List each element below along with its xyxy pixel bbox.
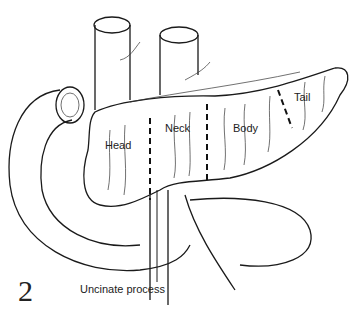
label-neck: Neck [165,122,191,134]
surface-hatching [108,76,325,195]
portal-vein [95,25,130,110]
vessel-branch [120,42,210,80]
jejunum [190,198,311,266]
label-head: Head [105,139,131,151]
duodenum-lumen [61,93,79,117]
body-tail-divider [278,90,292,128]
label-body: Body [233,122,259,134]
figure-number: 2 [18,274,33,307]
duodenum [9,90,190,271]
duodenum-opening [56,87,84,123]
label-tail: Tail [294,91,311,103]
pancreas-outline [84,68,348,207]
aorta [160,35,198,95]
pancreas-illustration: Head Neck Body Tail Uncinate process 2 [0,0,354,319]
aorta-opening [160,27,198,43]
portal-vein-opening [94,17,130,33]
label-uncinate-process: Uncinate process [80,283,165,295]
